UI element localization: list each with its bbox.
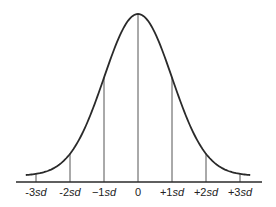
tick-label-unit: sd: [104, 186, 117, 198]
tick-label-value: -3: [25, 186, 35, 198]
tick-label-value: +3: [228, 186, 241, 198]
tick-label: +2sd: [194, 186, 219, 198]
tick-label-value: -2: [59, 186, 69, 198]
tick-label-value: −1: [92, 186, 105, 198]
tick-label-unit: sd: [206, 186, 219, 198]
normal-distribution-diagram: -3sd-2sd−1sd0+1sd+2sd+3sd: [0, 0, 276, 207]
tick-label-value: +1: [160, 186, 173, 198]
tick-label-unit: sd: [35, 186, 48, 198]
tick-label: 0: [135, 186, 141, 198]
tick-label-value: +2: [194, 186, 207, 198]
tick-label-unit: sd: [240, 186, 253, 198]
tick-label-value: 0: [135, 186, 141, 198]
tick-label-unit: sd: [172, 186, 185, 198]
tick-label: +1sd: [160, 186, 185, 198]
tick-label: −1sd: [92, 186, 117, 198]
tick-label: +3sd: [228, 186, 253, 198]
tick-label: -3sd: [25, 186, 47, 198]
tick-label-unit: sd: [69, 186, 82, 198]
tick-label: -2sd: [59, 186, 81, 198]
sd-tick-labels: -3sd-2sd−1sd0+1sd+2sd+3sd: [25, 186, 253, 198]
